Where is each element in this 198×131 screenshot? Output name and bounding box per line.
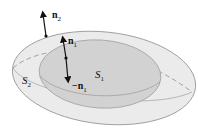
neg-n1-subscript: 1 xyxy=(83,86,87,94)
neg-n1-label: −n xyxy=(72,80,84,91)
n1-subscript: 1 xyxy=(74,41,78,49)
point-on-s2 xyxy=(44,34,47,37)
nested-surfaces-diagram: n2 n1 −n1 S1 S2 xyxy=(0,0,198,131)
svg-text:n2: n2 xyxy=(52,9,62,23)
n2-subscript: 2 xyxy=(58,15,62,23)
vector-n2: n2 xyxy=(43,9,62,38)
